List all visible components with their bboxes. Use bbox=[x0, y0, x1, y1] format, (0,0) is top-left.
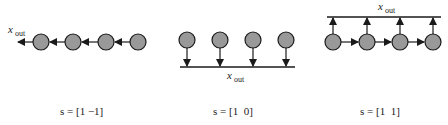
node bbox=[278, 32, 294, 48]
caption-middle: s = [1 0] bbox=[213, 105, 253, 117]
output-label: x bbox=[7, 23, 13, 35]
panel-right: x out bbox=[325, 0, 441, 50]
node bbox=[425, 34, 441, 50]
node bbox=[130, 34, 146, 50]
node bbox=[392, 34, 408, 50]
node bbox=[98, 34, 114, 50]
node bbox=[359, 34, 375, 50]
node bbox=[245, 32, 261, 48]
node bbox=[179, 32, 195, 48]
output-label: x bbox=[226, 69, 232, 81]
node bbox=[33, 34, 49, 50]
output-subscript: out bbox=[15, 29, 26, 38]
output-label: x bbox=[377, 0, 383, 12]
output-subscript: out bbox=[385, 6, 396, 15]
node bbox=[212, 32, 228, 48]
panel-left: x out bbox=[7, 23, 146, 50]
caption-left: s = [1 −1] bbox=[60, 105, 103, 117]
output-subscript: out bbox=[234, 75, 245, 84]
node bbox=[325, 34, 341, 50]
panel-middle: x out bbox=[179, 32, 295, 84]
node bbox=[65, 34, 81, 50]
caption-right: s = [1 1] bbox=[360, 105, 400, 117]
